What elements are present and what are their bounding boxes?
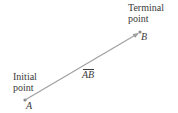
vector-label-text: AB (82, 69, 94, 80)
terminal-caption-line2: point (128, 13, 164, 24)
initial-point-label: A (26, 100, 32, 111)
initial-caption-line2: point (13, 82, 37, 93)
vector-line (25, 34, 138, 101)
vector-label: AB (82, 69, 94, 80)
terminal-caption-line1: Terminal (128, 2, 164, 13)
terminal-point-caption: Terminal point (128, 2, 164, 24)
vector-diagram: Terminal point B Initial point A AB (0, 0, 178, 113)
initial-point-caption: Initial point (13, 71, 37, 93)
terminal-point-label: B (141, 31, 147, 42)
initial-caption-line1: Initial (13, 71, 37, 82)
